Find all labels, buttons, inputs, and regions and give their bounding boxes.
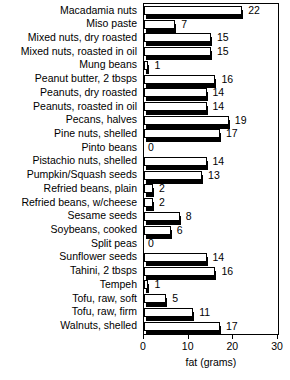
category-label: Mixed nuts, dry roasted: [0, 32, 137, 43]
x-tick-label: 20: [219, 340, 245, 352]
bar: [144, 280, 148, 289]
x-tick-label: 10: [175, 340, 201, 352]
bar-value-label: 8: [186, 210, 192, 223]
category-label: Tahini, 2 tbsps: [0, 265, 137, 276]
bar-value-label: 17: [226, 320, 238, 333]
category-label: Tempeh: [0, 279, 137, 290]
bar-value-label: 14: [213, 251, 225, 264]
bar-value-label: 16: [221, 265, 233, 278]
bar: [144, 184, 153, 193]
category-label: Tofu, raw, firm: [0, 306, 137, 317]
bar-value-label: 19: [235, 114, 247, 127]
category-label: Refried beans, w/cheese: [0, 197, 137, 208]
category-label: Pumpkin/Squash seeds: [0, 169, 137, 180]
x-axis-title: fat (grams): [143, 356, 279, 368]
bar: [144, 6, 242, 15]
category-label: Peanut butter, 2 tbsps: [0, 73, 137, 84]
category-label: Sunflower seeds: [0, 251, 137, 262]
bar-value-label: 1: [154, 59, 160, 72]
bar: [144, 61, 148, 70]
bar-value-label: 1: [154, 278, 160, 291]
bar: [144, 253, 207, 262]
x-axis: fat (grams) 0102030: [143, 334, 279, 380]
bar-value-label: 2: [159, 196, 165, 209]
category-label: Pine nuts, shelled: [0, 128, 137, 139]
category-label: Pecans, halves: [0, 114, 137, 125]
x-tick: [143, 334, 144, 339]
bar-value-label: 14: [213, 100, 225, 113]
bar: [144, 322, 220, 331]
plot-area: 22715151161414191701413228601416151117: [143, 3, 279, 335]
bar: [144, 226, 171, 235]
bar: [144, 171, 202, 180]
bar-value-label: 7: [181, 18, 187, 31]
bar-value-label: 16: [221, 73, 233, 86]
x-tick: [277, 334, 278, 339]
category-label: Split peas: [0, 238, 137, 249]
bar: [144, 20, 175, 29]
bar: [144, 116, 229, 125]
x-tick: [232, 334, 233, 339]
bar-chart: Macadamia nutsMiso pasteMixed nuts, dry …: [0, 0, 290, 380]
category-label-column: Macadamia nutsMiso pasteMixed nuts, dry …: [0, 0, 140, 333]
bar: [144, 308, 193, 317]
category-label: Tofu, raw, soft: [0, 293, 137, 304]
x-tick-label: 0: [130, 340, 156, 352]
bar-value-label: 2: [159, 182, 165, 195]
category-label: Miso paste: [0, 18, 137, 29]
bar-value-label: 13: [208, 169, 220, 182]
category-label: Pistachio nuts, shelled: [0, 155, 137, 166]
bar: [144, 267, 215, 276]
x-tick: [188, 334, 189, 339]
bar-value-label: 22: [248, 4, 260, 17]
bar: [144, 75, 215, 84]
bar-value-label: 15: [217, 45, 229, 58]
category-label: Peanuts, dry roasted: [0, 87, 137, 98]
bar: [144, 129, 220, 138]
bar-value-label: 15: [217, 31, 229, 44]
bar: [144, 47, 211, 56]
bar: [144, 33, 211, 42]
bar: [144, 294, 166, 303]
bar-value-label: 5: [172, 292, 178, 305]
category-label: Refried beans, plain: [0, 183, 137, 194]
bar-value-label: 11: [199, 306, 210, 319]
category-label: Peanuts, roasted in oil: [0, 101, 137, 112]
bar-value-label: 0: [148, 237, 154, 250]
category-label: Soybeans, cooked: [0, 224, 137, 235]
category-label: Mixed nuts, roasted in oil: [0, 46, 137, 57]
category-label: Macadamia nuts: [0, 5, 137, 16]
bar-value-label: 14: [213, 86, 225, 99]
bar: [144, 212, 180, 221]
category-label: Pinto beans: [0, 142, 137, 153]
category-label: Mung beans: [0, 59, 137, 70]
bar-value-label: 17: [226, 127, 238, 140]
bar-value-label: 6: [177, 224, 183, 237]
bar: [144, 157, 207, 166]
category-label: Walnuts, shelled: [0, 320, 137, 331]
bar-value-label: 0: [148, 141, 154, 154]
bar: [144, 88, 207, 97]
category-label: Sesame seeds: [0, 210, 137, 221]
bar: [144, 198, 153, 207]
bar: [144, 102, 207, 111]
bar-value-label: 14: [213, 155, 225, 168]
x-tick-label: 30: [264, 340, 290, 352]
